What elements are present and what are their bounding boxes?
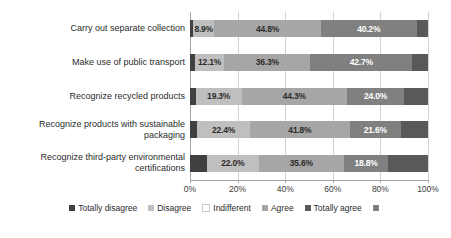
bar-row: 22.4%41.8%21.6% bbox=[190, 121, 428, 138]
category-label: Make use of public transport bbox=[8, 57, 190, 68]
tick-label-100%: 100% bbox=[417, 184, 439, 194]
legend-swatch-icon bbox=[202, 204, 210, 212]
bar-segment bbox=[417, 20, 428, 37]
category-label: Recognize recycled products bbox=[8, 91, 190, 102]
legend-label: Agree bbox=[271, 203, 294, 213]
tick-mark bbox=[285, 180, 286, 183]
bar-segment bbox=[401, 121, 428, 138]
bar-segment: 12.1% bbox=[195, 54, 224, 71]
bar-row: 19.3%44.3%24.0% bbox=[190, 88, 428, 105]
legend-label: Totally disagree bbox=[78, 203, 137, 213]
legend-item[interactable]: Totally agree bbox=[305, 203, 362, 213]
legend-item[interactable]: Disagree bbox=[148, 203, 191, 213]
bar-segment: 42.7% bbox=[310, 54, 412, 71]
bar-segment: 19.3% bbox=[196, 88, 242, 105]
tick-mark bbox=[238, 180, 239, 183]
stacked-bar-chart: Carry out separate collectionMake use of… bbox=[0, 0, 451, 238]
tick-mark bbox=[380, 180, 381, 183]
tick-mark bbox=[428, 180, 429, 183]
bar-segment: 44.3% bbox=[242, 88, 347, 105]
legend-swatch-icon bbox=[69, 205, 75, 211]
legend-label: Disagree bbox=[157, 203, 191, 213]
category-label: Recognize products with sustainable pack… bbox=[8, 119, 190, 141]
bar-segment: 36.3% bbox=[224, 54, 310, 71]
category-axis-labels: Carry out separate collectionMake use of… bbox=[0, 12, 190, 180]
bar-segment bbox=[404, 88, 428, 105]
tick-label-40%: 40% bbox=[277, 184, 294, 194]
tick-label-80%: 80% bbox=[372, 184, 389, 194]
tick-label-20%: 20% bbox=[229, 184, 246, 194]
legend-label: Totally agree bbox=[314, 203, 362, 213]
legend-label: Indifferent bbox=[213, 203, 251, 213]
plot-area: 8.9%44.8%40.2%12.1%36.3%42.7%19.3%44.3%2… bbox=[190, 12, 428, 180]
bar-segment: 40.2% bbox=[321, 20, 417, 37]
tick-mark bbox=[190, 180, 191, 183]
x-axis-ticks: 0%20%40%60%80%100% bbox=[190, 180, 428, 196]
legend-swatch-icon bbox=[262, 205, 268, 211]
bar-segment: 18.8% bbox=[344, 155, 389, 172]
legend-swatch-icon bbox=[373, 205, 379, 211]
category-label: Recognize third-party environmental cert… bbox=[8, 152, 190, 174]
bar-segment: 22.0% bbox=[207, 155, 259, 172]
bar-segment: 44.8% bbox=[214, 20, 321, 37]
tick-label-60%: 60% bbox=[324, 184, 341, 194]
legend-swatch-icon bbox=[305, 205, 311, 211]
bar-row: 8.9%44.8%40.2% bbox=[190, 20, 428, 37]
bar-segment bbox=[412, 54, 428, 71]
legend-item[interactable]: Agree bbox=[262, 203, 294, 213]
tick-mark bbox=[333, 180, 334, 183]
bar-segment bbox=[190, 121, 197, 138]
legend-item[interactable] bbox=[373, 205, 382, 211]
bar-row: 12.1%36.3%42.7% bbox=[190, 54, 428, 71]
bar-segment: 8.9% bbox=[193, 20, 214, 37]
bar-row: 22.0%35.6%18.8% bbox=[190, 155, 428, 172]
legend-item[interactable]: Indifferent bbox=[202, 203, 251, 213]
bar-segment: 21.6% bbox=[350, 121, 401, 138]
bar-segment: 41.8% bbox=[250, 121, 349, 138]
tick-label-0%: 0% bbox=[184, 184, 196, 194]
legend-item[interactable]: Totally disagree bbox=[69, 203, 137, 213]
chart-legend: Totally disagreeDisagreeIndifferentAgree… bbox=[0, 203, 451, 213]
bar-segment bbox=[190, 155, 207, 172]
bar-segment bbox=[388, 155, 428, 172]
bar-segment: 35.6% bbox=[259, 155, 344, 172]
gridline-100% bbox=[428, 12, 429, 180]
category-label: Carry out separate collection bbox=[8, 23, 190, 34]
bar-segment: 22.4% bbox=[197, 121, 250, 138]
bar-segment: 24.0% bbox=[347, 88, 404, 105]
legend-swatch-icon bbox=[148, 205, 154, 211]
